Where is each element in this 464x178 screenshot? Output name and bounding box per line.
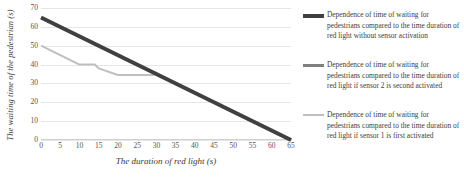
- x-axis-tick-label: 30: [153, 142, 161, 150]
- legend-swatch-icon: [303, 64, 324, 67]
- y-axis-tick-label: 20: [18, 99, 38, 107]
- legend-item-label: Dependence of time of waiting for pedest…: [327, 110, 462, 142]
- x-axis-tick-label: 60: [268, 142, 276, 150]
- series-line: [41, 17, 291, 140]
- legend-swatch-icon: [303, 114, 324, 116]
- series-group: [41, 17, 291, 140]
- legend-swatch-icon: [303, 14, 324, 18]
- legend-item-label: Dependence of time of waiting for pedest…: [327, 10, 462, 42]
- x-axis-tick-label: 65: [287, 142, 295, 150]
- x-axis-tick-label: 10: [76, 142, 84, 150]
- legend-item[interactable]: Dependence of time of waiting for pedest…: [303, 110, 464, 142]
- series-lines: [41, 8, 291, 140]
- y-axis-tick-label: 40: [18, 61, 38, 69]
- x-axis-title: The duration of red light (s): [41, 156, 291, 166]
- x-axis-tick-label: 25: [133, 142, 141, 150]
- x-axis-tick-label: 5: [58, 142, 62, 150]
- y-axis-tick-label: 0: [18, 136, 38, 144]
- legend-item[interactable]: Dependence of time of waiting for pedest…: [303, 10, 464, 42]
- legend-item[interactable]: Dependence of time of waiting for pedest…: [303, 60, 464, 92]
- y-axis-tick-labels: 010203040506070: [18, 8, 38, 140]
- x-axis-tick-label: 35: [172, 142, 180, 150]
- y-axis-tick-label: 10: [18, 117, 38, 125]
- x-axis-tick-label: 20: [114, 142, 122, 150]
- y-axis-tick-label: 30: [18, 80, 38, 88]
- legend-item-label: Dependence of time of waiting for pedest…: [327, 60, 462, 92]
- x-axis-tick-label: 40: [191, 142, 199, 150]
- series-line: [41, 46, 291, 140]
- x-axis-tick-label: 45: [210, 142, 218, 150]
- y-axis-title-text: The waiting time of the pedestrian (s): [5, 9, 15, 140]
- y-axis-title: The waiting time of the pedestrian (s): [2, 0, 18, 150]
- y-axis-tick-label: 60: [18, 23, 38, 31]
- x-axis-tick-label: 0: [39, 142, 43, 150]
- x-axis-tick-label: 50: [230, 142, 238, 150]
- x-axis-tick-labels: 05101520253035404550556065: [41, 142, 291, 154]
- chart-legend: Dependence of time of waiting for pedest…: [303, 10, 464, 170]
- x-axis-tick-label: 15: [95, 142, 103, 150]
- x-axis-tick-label: 55: [249, 142, 257, 150]
- plot-area: [41, 8, 291, 140]
- chart-plot-area-container: The waiting time of the pedestrian (s) 0…: [0, 0, 300, 178]
- chart-figure: The waiting time of the pedestrian (s) 0…: [0, 0, 464, 178]
- y-axis-tick-label: 50: [18, 42, 38, 50]
- y-axis-tick-label: 70: [18, 4, 38, 12]
